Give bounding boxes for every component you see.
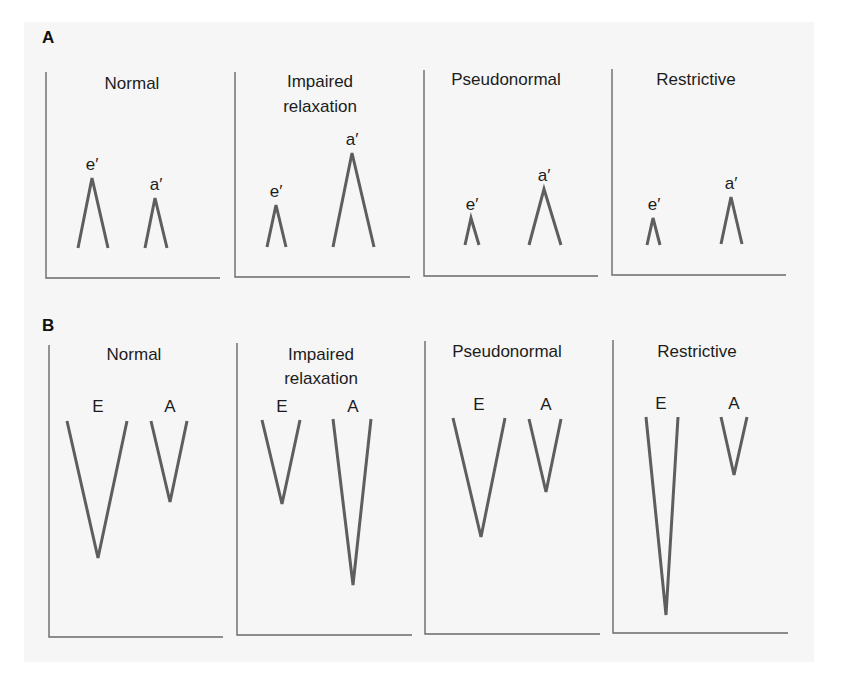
wave-label: E <box>92 397 103 416</box>
wave-label: A <box>347 397 359 416</box>
wave-tissue-atrial <box>529 189 561 245</box>
wave-label: A <box>540 395 552 414</box>
wave-tissue-early <box>647 218 660 245</box>
panel-impaired-relaxation: ImpairedrelaxationEA <box>237 343 412 635</box>
panel-title: Impaired <box>288 345 354 364</box>
wave-flow-atrial <box>529 419 561 492</box>
wave-flow-early <box>67 421 127 558</box>
panel-title: relaxation <box>283 97 357 116</box>
wave-flow-early <box>262 420 300 504</box>
wave-label: e′ <box>466 195 479 214</box>
panel-title: Normal <box>105 74 160 93</box>
wave-tissue-early <box>267 205 286 247</box>
wave-label: E <box>655 394 666 413</box>
wave-tissue-atrial <box>721 197 742 244</box>
panel-normal: NormalEA <box>49 345 223 637</box>
section-a: ANormale′a′Impairedrelaxatione′a′Pseudon… <box>42 28 786 278</box>
panel-axes <box>612 69 786 275</box>
panel-axes <box>425 341 600 634</box>
panel-restrictive: Restrictivee′a′ <box>612 69 786 275</box>
panel-axes <box>49 345 223 637</box>
panel-title: Pseudonormal <box>451 70 561 89</box>
wave-flow-early <box>453 418 505 537</box>
panel-title: Pseudonormal <box>452 342 562 361</box>
wave-label: e′ <box>270 182 283 201</box>
panel-axes <box>424 70 598 276</box>
wave-tissue-atrial <box>145 198 167 248</box>
wave-flow-atrial <box>333 419 371 585</box>
wave-label: a′ <box>346 130 359 149</box>
panel-title: Restrictive <box>657 342 736 361</box>
wave-label: e′ <box>648 195 661 214</box>
wave-label: a′ <box>725 174 738 193</box>
panel-restrictive: RestrictiveEA <box>613 340 788 633</box>
panel-title: Normal <box>107 345 162 364</box>
panel-normal: Normale′a′ <box>46 72 220 278</box>
wave-label: A <box>164 397 176 416</box>
panel-axes <box>613 340 788 633</box>
wave-label: E <box>473 395 484 414</box>
section-label: B <box>42 316 54 335</box>
wave-label: e′ <box>86 155 99 174</box>
wave-tissue-early <box>465 218 479 245</box>
wave-label: a′ <box>150 175 163 194</box>
wave-label: a′ <box>538 166 551 185</box>
doppler-diastolic-patterns-figure: ANormale′a′Impairedrelaxatione′a′Pseudon… <box>0 0 844 676</box>
section-label: A <box>42 28 54 47</box>
panel-impaired-relaxation: Impairedrelaxatione′a′ <box>235 72 410 277</box>
wave-tissue-early <box>78 178 108 248</box>
panel-title: relaxation <box>284 369 358 388</box>
panel-title: Restrictive <box>656 70 735 89</box>
panel-title: Impaired <box>287 72 353 91</box>
wave-label: A <box>728 394 740 413</box>
panel-axes <box>46 72 220 278</box>
wave-label: E <box>276 397 287 416</box>
section-b: BNormalEAImpairedrelaxationEAPseudonorma… <box>42 316 788 637</box>
panel-pseudonormal: Pseudonormale′a′ <box>424 70 598 276</box>
panel-pseudonormal: PseudonormalEA <box>425 341 600 634</box>
wave-flow-early <box>646 417 678 615</box>
wave-flow-atrial <box>721 417 747 475</box>
wave-flow-atrial <box>151 421 187 502</box>
wave-tissue-atrial <box>333 153 374 247</box>
